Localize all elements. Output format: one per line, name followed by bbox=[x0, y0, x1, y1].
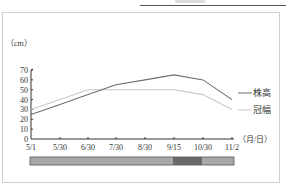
growth-timeline-bar bbox=[30, 157, 234, 165]
legend-label-crown-width: 冠幅 bbox=[253, 104, 271, 115]
y-axis-unit: （cm） bbox=[6, 39, 32, 48]
y-axis: 010203040506070 bbox=[20, 66, 33, 144]
x-tick-label: 5/1 bbox=[26, 143, 36, 152]
x-axis: 5/15/306/307/308/309/1510/3011/2 bbox=[26, 137, 239, 152]
legend: 株高 冠幅 bbox=[238, 87, 271, 115]
x-axis-unit: （月/日） bbox=[238, 135, 272, 144]
y-tick-label: 50 bbox=[20, 86, 28, 95]
x-tick-label: 6/30 bbox=[81, 143, 95, 152]
x-tick-label: 9/15 bbox=[167, 143, 181, 152]
legend-label-plant-height: 株高 bbox=[253, 87, 271, 98]
series-line bbox=[31, 90, 232, 110]
y-tick-label: 30 bbox=[20, 105, 28, 114]
y-tick-label: 10 bbox=[20, 125, 28, 134]
x-tick-label: 11/2 bbox=[225, 143, 239, 152]
x-tick-label: 8/30 bbox=[138, 143, 152, 152]
x-tick-label: 10/30 bbox=[194, 143, 212, 152]
line-chart: （cm） 010203040506070 5/15/306/307/308/30… bbox=[0, 0, 286, 187]
timeline-segment bbox=[202, 157, 234, 165]
y-tick-label: 70 bbox=[20, 66, 28, 75]
timeline-segment bbox=[30, 157, 174, 165]
x-tick-label: 5/30 bbox=[53, 143, 67, 152]
timeline-segment bbox=[173, 157, 203, 165]
y-tick-label: 20 bbox=[20, 115, 28, 124]
x-tick-label: 7/30 bbox=[109, 143, 123, 152]
y-tick-label: 60 bbox=[20, 76, 28, 85]
y-tick-label: 40 bbox=[20, 96, 28, 105]
plot-lines bbox=[31, 75, 232, 115]
